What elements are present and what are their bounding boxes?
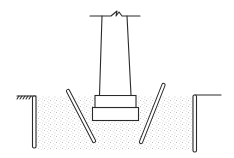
break-line — [90, 11, 140, 16]
right-sheet-pile — [193, 95, 197, 152]
footing-upper-step — [95, 96, 136, 108]
footing-diagram — [0, 0, 234, 158]
left-sheet-pile — [33, 96, 37, 148]
footing-lower-step — [93, 108, 139, 121]
column — [90, 11, 140, 95]
footing — [93, 96, 139, 121]
